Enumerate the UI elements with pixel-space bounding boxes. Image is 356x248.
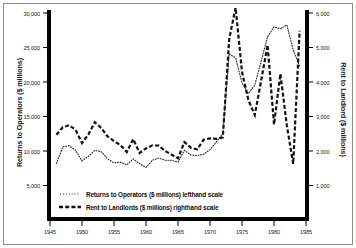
y-tick-left-25000: 25,000 [8, 45, 40, 51]
y-tick-left-5000: 5,000 [8, 183, 40, 189]
plot-background [50, 11, 307, 219]
y-axis-title-right: Rent to Landlord ($ millions) [339, 35, 348, 185]
left-axis-spine [47, 10, 51, 221]
chart-figure: Returns to Operators ($ millions) Rent t… [0, 0, 356, 248]
x-tick-1945: 1945 [36, 229, 64, 235]
x-tick-1985: 1985 [292, 229, 320, 235]
y-tick-left-20000: 20,000 [8, 80, 40, 86]
legend-label-returns: Returns to Operators ($ millions) leftha… [86, 191, 223, 198]
y-tick-right-6000: 6,000 [316, 11, 348, 17]
y-tick-left-30000: 30,000 [8, 11, 40, 17]
right-axis-ticks [309, 13, 313, 186]
right-axis-spine [305, 10, 309, 221]
left-axis-ticks [43, 13, 47, 186]
y-tick-right-4000: 4,000 [316, 80, 348, 86]
bottom-axis-spine [47, 217, 309, 221]
y-tick-right-2000: 2,000 [316, 149, 348, 155]
x-tick-1970: 1970 [196, 229, 224, 235]
x-tick-1950: 1950 [68, 229, 96, 235]
x-tick-1975: 1975 [228, 229, 256, 235]
x-tick-1965: 1965 [164, 229, 192, 235]
y-tick-right-3000: 3,000 [316, 114, 348, 120]
legend-label-rent: Rent to Landlords ($ millions) righthand… [86, 204, 218, 211]
x-tick-1955: 1955 [100, 229, 128, 235]
y-tick-right-5000: 5,000 [316, 45, 348, 51]
x-tick-1960: 1960 [132, 229, 160, 235]
y-axis-title-left: Returns to Operators ($ millions) [15, 38, 24, 188]
y-tick-left-10000: 10,000 [8, 149, 40, 155]
y-tick-left-15000: 15,000 [8, 114, 40, 120]
y-tick-right-1000: 1,000 [316, 183, 348, 189]
bottom-axis-ticks [50, 221, 306, 226]
x-tick-1980: 1980 [260, 229, 288, 235]
